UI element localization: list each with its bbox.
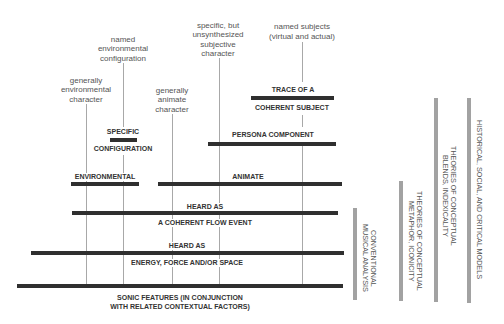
method-label-historical-critical: HISTORICAL, SOCIAL, AND CRITICAL MODELS (474, 110, 483, 288)
label-coherent-subject: COHERENT SUBJECT (253, 104, 331, 112)
trace-of-subject-bar (251, 96, 334, 100)
label-configuration: CONFIGURATION (92, 145, 155, 153)
method-bar-conventional-analysis (353, 208, 357, 300)
label-specific: SPECIFIC (105, 128, 141, 136)
semiotic-levels-diagram: generally environmental character named … (0, 0, 504, 324)
method-label-conceptual-metaphor: THEORIES OF CONCEPTUAL METAPHOR, ICONICI… (406, 187, 423, 295)
environmental-bar (71, 182, 139, 186)
connector-named-subjects-upper (302, 42, 303, 82)
method-bar-conceptual-metaphor (399, 181, 403, 301)
annotation-specific-unsynthesized: specific, but unsynthesized subjective c… (192, 21, 243, 59)
label-coherent-flow-event: A COHERENT FLOW EVENT (156, 219, 254, 227)
method-bar-conceptual-blends (434, 98, 438, 302)
connector-generally-environmental (86, 104, 87, 286)
connector-named-environmental-upper (123, 63, 124, 127)
sonic-features-bar (17, 284, 343, 288)
annotation-generally-animate: generally animate character (155, 86, 188, 114)
label-persona-component: PERSONA COMPONENT (230, 131, 316, 139)
annotation-named-subjects: named subjects (virtual and actual) (269, 22, 335, 42)
method-bar-historical-critical (467, 98, 471, 303)
connector-named-subjects-middle (302, 115, 303, 127)
flow-event-bar (72, 211, 338, 215)
persona-component-bar (208, 142, 336, 146)
animate-bar (158, 182, 342, 186)
method-label-conceptual-blends: THEORIES OF CONCEPTUAL BLENDS, INDEXICAL… (440, 146, 457, 246)
annotation-named-environmental-configuration: named environmental configuration (98, 35, 148, 63)
connector-named-subjects-lower (302, 146, 303, 286)
label-trace-of-a: TRACE OF A (270, 86, 317, 94)
label-environmental: ENVIRONMENTAL (73, 173, 138, 181)
label-heard-as-energy: HEARD AS (167, 242, 207, 250)
label-heard-as-flow: HEARD AS (185, 203, 225, 211)
label-sonic-features: SONIC FEATURES (IN CONJUNCTION WITH RELA… (108, 293, 252, 311)
annotation-generally-environmental: generally environmental character (61, 76, 111, 104)
energy-force-space-bar (31, 251, 344, 255)
label-animate: ANIMATE (230, 173, 265, 181)
method-label-conventional-analysis: CONVENTIONAL MUSICAL ANALYSIS (360, 222, 377, 294)
label-energy-force-space: ENERGY, FORCE AND/OR SPACE (129, 259, 245, 267)
specific-configuration-bar (110, 138, 137, 142)
